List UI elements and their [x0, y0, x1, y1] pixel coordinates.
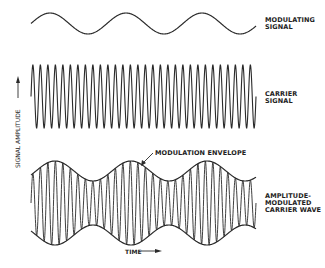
modulating-label-line2: SIGNAL — [265, 24, 315, 31]
modulating-signal-label: MODULATING SIGNAL — [265, 17, 315, 31]
carrier-signal-wave — [31, 65, 256, 128]
carrier-signal-label: CARRIER SIGNAL — [265, 91, 297, 105]
modulation-envelope-label: MODULATION ENVELOPE — [155, 150, 246, 157]
am-wave-label: AMPLITUDE- MODULATED CARRIER WAVE — [265, 193, 321, 214]
carrier-label-line2: SIGNAL — [265, 98, 297, 105]
am-diagram — [0, 0, 325, 268]
am-carrier-wave — [31, 161, 256, 245]
envelope-pointer-arrow — [141, 153, 153, 166]
modulation-envelope-bottom — [31, 225, 256, 245]
am-label-line3: CARRIER WAVE — [265, 207, 321, 214]
y-axis-up-arrow — [16, 76, 20, 98]
modulating-signal-wave — [31, 13, 256, 34]
time-axis-label: TIME — [125, 248, 142, 255]
time-right-arrow — [141, 249, 162, 253]
signal-amplitude-axis-label: SIGNAL AMPLITUDE — [14, 109, 21, 168]
